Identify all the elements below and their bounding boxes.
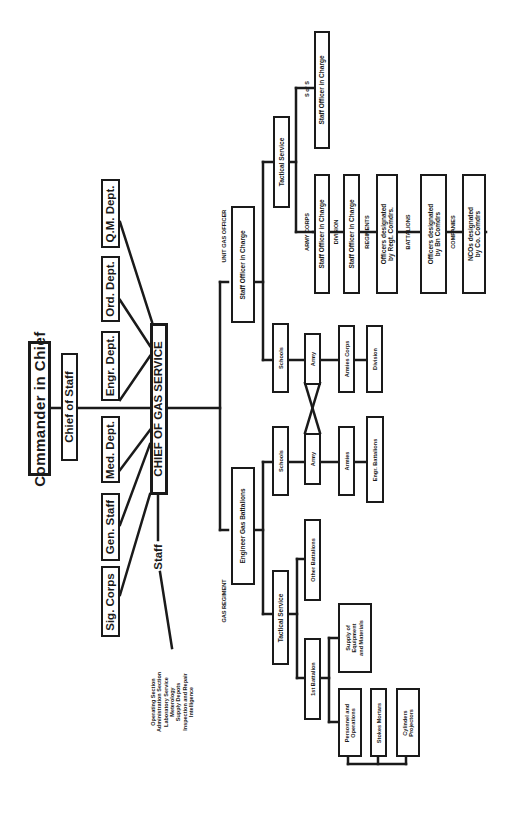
armies-corps-label: Armies Corps (343, 341, 349, 378)
ugo-tactical-service-label: Tactical Service (278, 138, 285, 187)
battalions-officer-label: Officers designated by Bn Comdrs (426, 204, 441, 265)
s-of-s-label: S of S (304, 81, 310, 97)
sig-corps-label: Sig. Corps (104, 573, 117, 631)
armies-box: Armies (338, 426, 355, 496)
first-battalion-label: 1st Battalion (309, 662, 315, 696)
regiments-level-label-box: REGIMENTS (362, 214, 372, 250)
stokes-mortars-box: Stokes Mortars (370, 688, 387, 757)
s-of-s-label-box: S of S (302, 78, 312, 100)
army-corps-officer-box: Staff Officer in Charge (314, 174, 330, 294)
gr-schools-box: Schools (272, 426, 289, 496)
med-dept-box: Med. Dept. (101, 416, 120, 483)
regiments-officer-label: Officers designated by Regt. Comdrs. (380, 204, 395, 265)
sig-corps-box: Sig. Corps (101, 566, 120, 637)
companies-level-label-box: COMPANIES (448, 212, 458, 252)
battalions-officer-box: Officers designated by Bn Comdrs (420, 174, 447, 294)
ord-dept-box: Ord. Dept. (101, 256, 120, 322)
gas-service-org-chart: Commander in Chief Chief of Staff CHIEF … (0, 0, 516, 835)
ugo-army-label: Army (309, 352, 315, 366)
gr-tactical-service-label: Tactical Service (277, 593, 284, 642)
stokes-mortars-label: Stokes Mortars (375, 702, 381, 742)
staff-section-item: Laboratory Service (163, 672, 169, 732)
personnel-operations-box: Personnel and Operations (338, 688, 362, 757)
division-officer-box: Staff Officer in Charge (343, 174, 360, 294)
army-corps-officer-label: Staff Officer in Charge (318, 200, 325, 269)
supply-equipment-box: Supply of Equipment and Materials (338, 603, 372, 673)
regiments-officer-box: Officers designated by Regt. Comdrs. (376, 174, 398, 294)
gen-staff-box: Gen. Staff (101, 493, 120, 561)
ugo-army-box: Army (304, 333, 321, 385)
chief-of-gas-service-label: CHIEF OF GAS SERVICE (152, 341, 165, 476)
supply-equipment-label: Supply of Equipment and Materials (345, 620, 364, 656)
s-of-s-staff-officer-label: Staff Officer in Charge (318, 56, 325, 125)
unit-gas-officer-heading-text: UNIT GAS OFFICER (221, 210, 227, 263)
engr-battalions-box: Engr. Battalions (366, 416, 384, 503)
gr-schools-label: Schools (277, 450, 283, 472)
other-battalions-box: Other Battalions (304, 519, 321, 601)
gr-tactical-service-box: Tactical Service (272, 570, 289, 665)
staff-section-item: Inspection and Repair (181, 672, 187, 732)
battalions-level-label: BATTALIONS (405, 214, 411, 249)
ugo-staff-officer-box: Staff Officer in Charge (231, 206, 255, 323)
gr-army-box: Army (304, 433, 321, 485)
unit-gas-officer-heading: UNIT GAS OFFICER (219, 205, 229, 267)
armies-corps-box: Armies Corps (338, 325, 355, 393)
regiments-level-label: REGIMENTS (364, 215, 370, 248)
engr-battalions-label: Engr. Battalions (372, 438, 378, 481)
staff-sections-list: Operating Section Administration Section… (140, 668, 204, 736)
ugo-staff-officer-label: Staff Officer in Charge (239, 230, 246, 299)
armies-label: Armies (343, 452, 349, 471)
army-corps-level-label-box: ARMY CORPS (302, 212, 312, 252)
engr-dept-label: Engr. Dept. (104, 336, 117, 397)
staff-label-box: Staff (150, 540, 168, 574)
ugo-schools-label: Schools (277, 347, 283, 369)
division-level-label-box: DIVISION (331, 216, 341, 248)
division-officer-label: Staff Officer in Charge (348, 200, 355, 269)
staff-label: Staff (152, 544, 165, 570)
chief-of-staff-label: Chief of Staff (63, 371, 76, 443)
ugo-division-box: Division (366, 325, 383, 393)
engr-dept-box: Engr. Dept. (101, 331, 120, 401)
division-level-label: DIVISION (333, 220, 339, 245)
cylinders-projectors-label: Cylinders Projectors (402, 709, 415, 737)
personnel-operations-label: Personnel and Operations (344, 703, 357, 742)
qm-dept-label: Q.M. Dept. (104, 185, 117, 242)
gr-army-label: Army (309, 452, 315, 466)
battalions-level-label-box: BATTALIONS (403, 212, 413, 252)
ord-dept-label: Ord. Dept. (104, 261, 117, 317)
s-of-s-staff-officer-box: Staff Officer in Charge (314, 31, 330, 149)
gas-regiment-heading-text: GAS REGIMENT (221, 579, 227, 622)
staff-section-item: Administration Section (156, 672, 162, 732)
qm-dept-box: Q.M. Dept. (101, 179, 120, 248)
army-corps-level-label: ARMY CORPS (304, 213, 310, 251)
engineer-gas-battalions-box: Engineer Gas Battalions (231, 467, 255, 585)
ugo-division-label: Division (371, 348, 377, 370)
chief-of-gas-service-box: CHIEF OF GAS SERVICE (150, 323, 168, 495)
other-battalions-label: Other Battalions (309, 538, 315, 582)
engineer-gas-battalions-label: Engineer Gas Battalions (239, 488, 246, 563)
ugo-tactical-service-box: Tactical Service (273, 116, 290, 208)
companies-nco-label: NCOs designated by Co. Comdrs (467, 207, 482, 261)
med-dept-label: Med. Dept. (104, 420, 117, 478)
cylinders-projectors-box: Cylinders Projectors (396, 688, 420, 757)
staff-section-item: Intelligence (188, 672, 194, 732)
commander-in-chief-label: Commander in Chief (31, 331, 48, 487)
first-battalion-box: 1st Battalion (304, 638, 321, 720)
companies-nco-box: NCOs designated by Co. Comdrs (462, 174, 486, 294)
companies-level-label: COMPANIES (450, 215, 456, 248)
gas-regiment-heading: GAS REGIMENT (219, 575, 229, 627)
chief-of-staff-box: Chief of Staff (61, 353, 78, 461)
gen-staff-label: Gen. Staff (104, 500, 117, 554)
commander-in-chief-box: Commander in Chief (28, 341, 51, 476)
ugo-schools-box: Schools (272, 323, 289, 393)
